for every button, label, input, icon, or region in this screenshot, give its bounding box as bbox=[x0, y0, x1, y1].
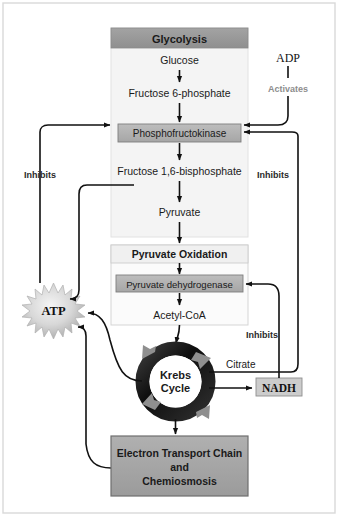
glycolysis-header-label: Glycolysis bbox=[152, 33, 207, 45]
nadh-label: NADH bbox=[262, 382, 296, 394]
etc-label-line1: Electron Transport Chain bbox=[117, 447, 242, 459]
metabolite-glucose: Glucose bbox=[160, 54, 199, 66]
electron-transport-chain-box: Electron Transport Chain and Chemiosmosi… bbox=[111, 436, 248, 496]
label-inhibits-pdh: Inhibits bbox=[246, 330, 278, 340]
atp-node: ATP bbox=[22, 283, 85, 339]
label-inhibits-pfk-right: Inhibits bbox=[257, 170, 289, 180]
label-activates-pfk: Activates bbox=[268, 84, 308, 94]
metabolite-fructose-6-phosphate: Fructose 6-phosphate bbox=[128, 87, 230, 99]
krebs-cycle-label-line2: Cycle bbox=[161, 382, 190, 394]
line-atp-inhibits-pfk bbox=[40, 125, 110, 283]
metabolite-acetyl-coa: Acetyl-CoA bbox=[153, 309, 206, 321]
metabolite-citrate-label: Citrate bbox=[226, 359, 256, 370]
krebs-cycle: Krebs Cycle bbox=[142, 345, 211, 419]
atp-label: ATP bbox=[41, 304, 65, 318]
arrow-acetylcoa-to-krebs bbox=[176, 325, 180, 343]
line-citrate-inhibits-pfk bbox=[244, 132, 298, 148]
panel-pyruvate-oxidation: Pyruvate Oxidation Pyruvate dehydrogenas… bbox=[111, 245, 248, 325]
panel-glycolysis: Glycolysis Glucose Fructose 6-phosphate … bbox=[111, 28, 248, 243]
etc-label-line3: Chemiosmosis bbox=[142, 475, 217, 487]
metabolite-pyruvate: Pyruvate bbox=[159, 206, 201, 218]
line-adp-activates-pfk bbox=[244, 66, 288, 125]
etc-label-line2: and bbox=[170, 461, 189, 473]
enzyme-pyruvate-dehydrogenase-label: Pyruvate dehydrogenase bbox=[126, 279, 233, 290]
label-inhibits-pfk-left: Inhibits bbox=[24, 170, 56, 180]
line-etc-to-atp bbox=[78, 327, 111, 468]
adp-label: ADP bbox=[276, 51, 300, 65]
metabolite-fructose-1-6-bisphosphate: Fructose 1,6-bisphosphate bbox=[117, 165, 241, 177]
krebs-cycle-label-line1: Krebs bbox=[160, 369, 191, 381]
diagram-canvas: Glycolysis Glucose Fructose 6-phosphate … bbox=[0, 0, 338, 516]
metabolic-regulation-diagram: Glycolysis Glucose Fructose 6-phosphate … bbox=[0, 0, 338, 516]
pyruvate-oxidation-header-label: Pyruvate Oxidation bbox=[132, 248, 228, 260]
enzyme-phosphofructokinase-label: Phosphofructokinase bbox=[133, 128, 227, 139]
